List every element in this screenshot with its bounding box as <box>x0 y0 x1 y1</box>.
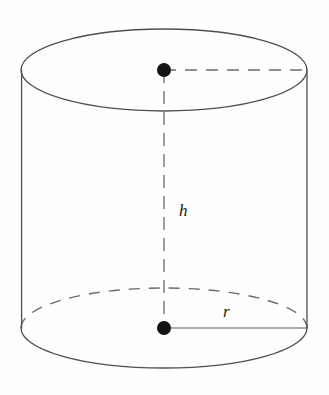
top-center-dot <box>157 63 171 77</box>
radius-label: r <box>223 303 230 320</box>
cylinder-figure: h r <box>0 0 329 395</box>
height-label: h <box>179 202 188 219</box>
cylinder-drawing <box>0 0 329 395</box>
bottom-center-dot <box>157 321 171 335</box>
